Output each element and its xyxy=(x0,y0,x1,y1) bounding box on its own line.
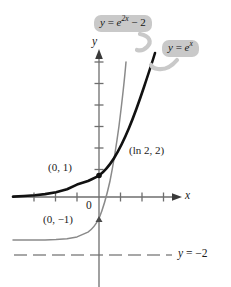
callout-ex: y = ex xyxy=(162,40,199,57)
y-axis-label: y xyxy=(92,36,97,48)
exponential-graph-figure: y = e2x − 2 y = ex y x 0 (0, 1) (ln 2, 2… xyxy=(0,0,231,287)
marker-point-0-minus-1 xyxy=(96,216,103,222)
callout-tail-e2x-minus-2 xyxy=(137,34,150,50)
y-axis-arrowhead xyxy=(95,49,103,59)
callout-1-eq: = xyxy=(105,16,117,28)
point-label-0-minus-1: (0, −1) xyxy=(43,214,73,225)
origin-label: 0 xyxy=(86,200,92,212)
point-label-ln2-2: (ln 2, 2) xyxy=(129,145,164,156)
callout-1-exponent: 2x xyxy=(122,14,129,23)
callout-1-tail: − 2 xyxy=(129,16,146,28)
callout-tail-ex xyxy=(151,60,177,69)
x-axis-label: x xyxy=(185,190,190,202)
callout-2-eq: = xyxy=(173,41,185,53)
callout-e2x-minus-2: y = e2x − 2 xyxy=(94,15,152,32)
asymptote-label: y = −2 xyxy=(178,248,208,260)
curve-ex xyxy=(13,53,155,197)
x-axis-arrowhead xyxy=(172,193,182,201)
point-label-0-1: (0, 1) xyxy=(48,162,72,173)
callout-2-exponent: x xyxy=(190,39,193,48)
marker-point-0-1 xyxy=(96,173,102,179)
asymptote-label-rhs: = −2 xyxy=(183,247,207,259)
